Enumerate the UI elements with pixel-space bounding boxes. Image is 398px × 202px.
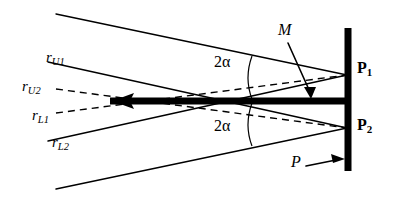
label-ray-rL2-sub: L2 xyxy=(58,141,69,152)
ray-rU1-line xyxy=(48,62,347,128)
label-ray-rL2: rL2 xyxy=(52,135,69,152)
mirror-leader-line xyxy=(288,43,310,92)
label-point-P1: P1 xyxy=(357,60,372,78)
ray-outer-lower-line xyxy=(56,128,347,189)
label-ray-rU2-sub: U2 xyxy=(28,85,41,96)
ray-diagram-figure: rU1 rU2 rL1 rL2 2α 2α M P P1 P2 xyxy=(0,0,398,202)
label-angle-lower: 2α xyxy=(214,118,230,134)
mirror-leader-arrowhead xyxy=(304,87,316,99)
label-point-P1-sub: 1 xyxy=(367,66,373,78)
label-point-P2: P2 xyxy=(357,117,372,135)
label-ray-rU1: rU1 xyxy=(46,50,65,67)
mirror-leader-arrow xyxy=(288,43,316,99)
label-point-P2-base: P xyxy=(357,116,367,133)
label-point-P2-sub: 2 xyxy=(367,123,373,135)
plane-leader-arrowhead xyxy=(331,154,345,163)
angle-arc-lower xyxy=(248,103,252,146)
label-point-P1-base: P xyxy=(357,59,367,76)
plane-leader-arrow xyxy=(306,154,345,166)
ray-outer-upper-line xyxy=(56,14,347,75)
label-ray-rU2: rU2 xyxy=(22,79,41,96)
label-plane-P: P xyxy=(291,154,301,170)
diagram-canvas xyxy=(0,0,398,202)
label-angle-upper: 2α xyxy=(214,54,230,70)
plane-leader-line xyxy=(306,160,336,166)
label-ray-rU1-sub: U1 xyxy=(52,56,65,67)
label-mirror-M: M xyxy=(278,22,291,38)
angle-arc-upper xyxy=(248,56,252,99)
ray-rU2-line xyxy=(56,89,347,128)
label-ray-rL1: rL1 xyxy=(32,108,49,125)
label-ray-rL1-sub: L1 xyxy=(38,114,49,125)
